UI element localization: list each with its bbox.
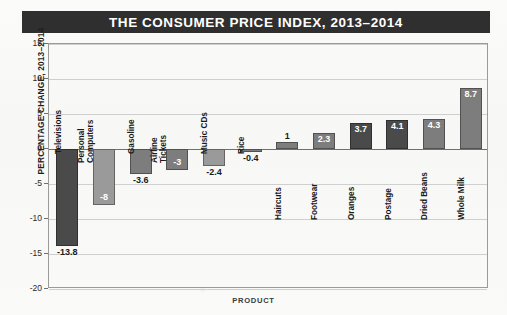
category-label: Footwear [310, 184, 319, 220]
bar-value-label: 8.7 [450, 89, 492, 99]
y-tick-mark-0 [44, 148, 48, 149]
category-label: Airline Tickets [150, 135, 168, 163]
gridline-10 [49, 79, 487, 80]
bar-value-label: 2.3 [303, 134, 345, 144]
y-tick-mark-15 [44, 43, 48, 44]
y-tick-mark--10 [44, 218, 48, 219]
page-title: THE CONSUMER PRICE INDEX, 2013–2014 [109, 15, 403, 30]
gridline--15 [49, 254, 487, 255]
gridline-15 [49, 44, 487, 45]
bar-value-label: -3.6 [120, 175, 162, 185]
category-label: Dried Beans [420, 172, 429, 220]
y-tick-mark-5 [44, 113, 48, 114]
category-label: Postage [384, 188, 393, 220]
y-tick-label-15: 15 [16, 38, 42, 48]
chart-title-banner: THE CONSUMER PRICE INDEX, 2013–2014 [22, 11, 490, 33]
y-tick-label-0: 0 [16, 143, 42, 153]
bar-value-label: -2.4 [193, 167, 235, 177]
bar [276, 142, 298, 149]
y-tick-label--20: -20 [16, 283, 42, 293]
category-label: Rice [237, 137, 246, 154]
y-tick-label-10: 10 [16, 73, 42, 83]
category-label: Televisions [54, 110, 63, 154]
y-tick-mark--20 [44, 288, 48, 289]
category-label: Whole Milk [457, 177, 466, 220]
bar-value-label: -13.8 [46, 247, 88, 257]
plot-area: -13.8Televisions-8Personal Computers-3.6… [48, 43, 488, 288]
y-tick-mark-10 [44, 78, 48, 79]
category-label: Haircuts [274, 187, 283, 220]
y-tick-label--15: -15 [16, 248, 42, 258]
category-label: Music CDs [200, 112, 209, 154]
bar-value-label: -0.4 [230, 153, 272, 163]
y-tick-label--5: -5 [16, 178, 42, 188]
y-tick-label-5: 5 [16, 108, 42, 118]
gridline-5 [49, 114, 487, 115]
y-tick-mark--15 [44, 253, 48, 254]
category-label: Personal Computers [77, 120, 95, 163]
category-label: Gasoline [127, 119, 136, 154]
gridline--20 [49, 289, 487, 290]
bar-value-label: 4.3 [413, 120, 455, 130]
bar-value-label: -8 [83, 192, 125, 202]
category-label: Oranges [347, 187, 356, 220]
y-tick-mark--5 [44, 183, 48, 184]
bar [56, 149, 78, 246]
y-tick-label--10: -10 [16, 213, 42, 223]
x-axis-title: PRODUCT [0, 296, 507, 305]
cpi-bar-chart: THE CONSUMER PRICE INDEX, 2013–2014 PERC… [0, 0, 507, 315]
